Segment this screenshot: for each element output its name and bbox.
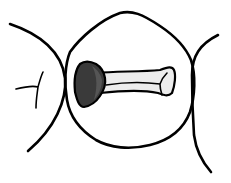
adjacent-tooth-left — [10, 24, 65, 151]
proximal-box-shaded — [75, 62, 106, 107]
groove-fill — [96, 67, 175, 95]
dental-diagram — [0, 0, 231, 183]
occlusal-groove-preparation — [96, 67, 175, 95]
adjacent-tooth-right — [192, 35, 218, 172]
diagram-svg — [0, 0, 231, 183]
